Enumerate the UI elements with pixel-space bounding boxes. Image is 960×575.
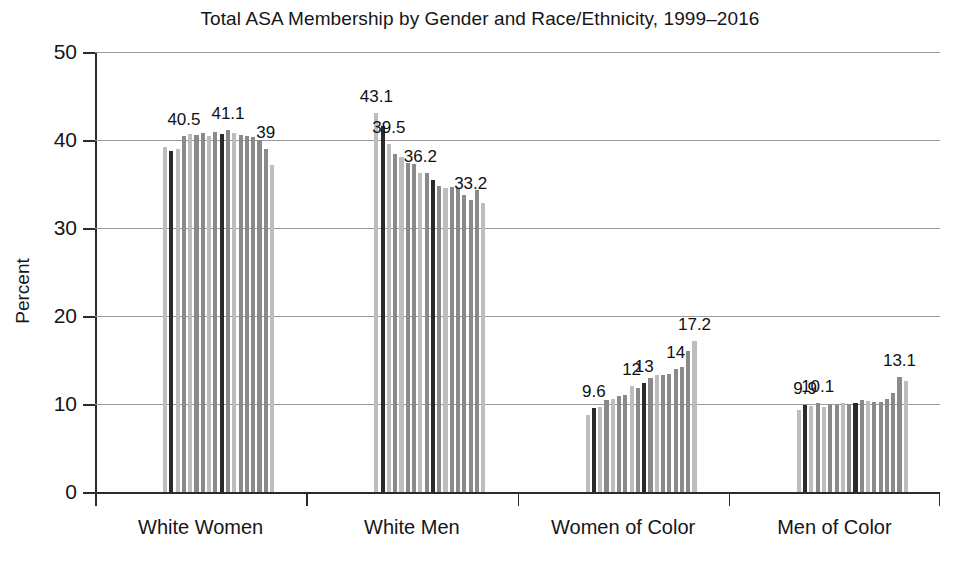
bar-value-label: 17.2: [678, 315, 711, 335]
y-tick-30: [83, 228, 95, 230]
x-tick: [939, 492, 941, 506]
bar: [623, 395, 627, 492]
bar: [904, 381, 908, 492]
bar: [393, 154, 397, 492]
bar: [406, 163, 410, 492]
bar: [598, 407, 602, 492]
bar-value-label: 43.1: [360, 87, 393, 107]
bar-value-label: 13.1: [883, 351, 916, 371]
bar: [462, 195, 466, 492]
bar: [835, 405, 839, 492]
bar: [270, 165, 274, 492]
plot-area: 0102030405040.541.13943.139.536.233.29.6…: [95, 52, 940, 492]
bar: [264, 149, 268, 492]
bar: [232, 133, 236, 492]
bar: [604, 400, 608, 492]
bar: [213, 132, 217, 492]
bar: [692, 341, 696, 492]
bar: [220, 134, 224, 492]
bar: [809, 406, 813, 492]
bar: [674, 369, 678, 492]
x-tick: [518, 492, 520, 506]
bar: [437, 186, 441, 492]
bar: [387, 144, 391, 492]
bar: [611, 399, 615, 492]
bar: [617, 396, 621, 492]
bar: [201, 133, 205, 492]
bar: [456, 188, 460, 492]
bar: [853, 403, 857, 492]
bar: [481, 203, 485, 492]
bar-value-label: 39.5: [372, 118, 405, 138]
bar: [381, 126, 385, 492]
bar: [251, 137, 255, 492]
bar: [399, 157, 403, 492]
category-label-white-men: White Men: [364, 516, 460, 539]
chart-root: Total ASA Membership by Gender and Race/…: [0, 0, 960, 575]
bar: [257, 140, 261, 492]
bar-value-label: 9.6: [582, 382, 606, 402]
bar: [226, 130, 230, 492]
bar: [207, 136, 211, 492]
bar: [475, 190, 479, 492]
x-tick: [306, 492, 308, 506]
y-tick-10: [83, 404, 95, 406]
bar: [586, 415, 590, 492]
bar-value-label: 36.2: [404, 147, 437, 167]
y-axis-spine: [95, 52, 97, 492]
bar: [667, 374, 671, 492]
y-tick-label-30: 30: [54, 216, 77, 240]
category-label-white-women: White Women: [138, 516, 263, 539]
bar: [885, 399, 889, 492]
y-tick-50: [83, 52, 95, 54]
bar: [879, 402, 883, 492]
bar: [374, 113, 378, 492]
bar: [412, 164, 416, 492]
bar: [169, 151, 173, 492]
bar: [469, 200, 473, 492]
bar: [450, 187, 454, 492]
bar-value-label: 13: [635, 357, 654, 377]
y-axis-label: Percent: [12, 258, 34, 323]
bar: [891, 393, 895, 492]
bar: [822, 407, 826, 492]
y-tick-20: [83, 316, 95, 318]
y-tick-label-50: 50: [54, 40, 77, 64]
bar: [872, 402, 876, 492]
bar: [239, 135, 243, 492]
y-tick-label-20: 20: [54, 304, 77, 328]
bar: [680, 367, 684, 492]
chart-title: Total ASA Membership by Gender and Race/…: [0, 8, 960, 30]
bar-value-label: 40.5: [167, 110, 200, 130]
bar: [443, 188, 447, 492]
bar: [592, 408, 596, 492]
category-label-men-of-color: Men of Color: [777, 516, 892, 539]
bar: [661, 375, 665, 492]
bar: [655, 375, 659, 492]
bar: [431, 180, 435, 492]
bar: [847, 404, 851, 492]
bar: [245, 136, 249, 492]
bar: [860, 400, 864, 492]
bar: [803, 405, 807, 492]
bar: [816, 403, 820, 492]
bar: [636, 388, 640, 492]
bar-value-label: 41.1: [211, 104, 244, 124]
category-label-women-of-color: Women of Color: [551, 516, 695, 539]
bar: [176, 149, 180, 492]
bar: [797, 410, 801, 492]
x-axis: [95, 492, 940, 506]
bar: [194, 135, 198, 492]
y-tick-label-40: 40: [54, 128, 77, 152]
y-tick-40: [83, 140, 95, 142]
bar: [828, 404, 832, 492]
bar-value-label: 33.2: [454, 174, 487, 194]
bar: [648, 378, 652, 492]
bar: [686, 351, 690, 492]
x-tick: [95, 492, 97, 506]
bar-value-label: 39: [256, 123, 275, 143]
bar: [630, 386, 634, 492]
bar: [163, 147, 167, 492]
bar: [841, 403, 845, 492]
gridline-50: [95, 52, 940, 53]
